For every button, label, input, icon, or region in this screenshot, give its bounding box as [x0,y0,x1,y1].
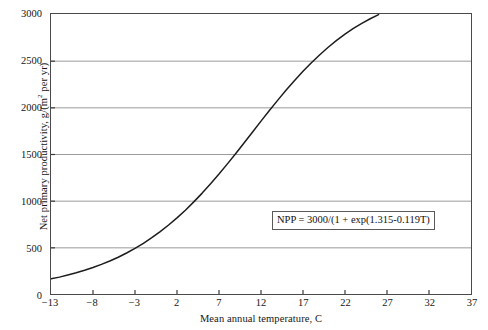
y-tick-label: 1000 [21,196,42,207]
y-tick-label: 2000 [21,102,42,113]
x-axis-tick-labels: −13−8−327121722273237 [50,297,472,313]
x-tick-label: 17 [298,297,309,308]
y-tick-label: 3000 [21,8,42,19]
plot-area [50,13,472,295]
y-axis-tick-labels: 050010001500200025003000 [0,0,46,330]
x-tick-label: 7 [216,297,221,308]
equation-annotation: NPP = 3000/(1 + exp(1.315-0.119T) [272,211,435,230]
x-tick-label: −8 [87,297,98,308]
y-tick-label: 500 [26,243,42,254]
series-line-npp [51,15,379,279]
x-tick-label: −3 [129,297,140,308]
y-tick-label: 1500 [21,149,42,160]
chart-page: Net primary productivity, g/(m2 per yr) … [0,0,488,330]
x-tick-label: 22 [340,297,351,308]
x-tick-label: 32 [425,297,436,308]
x-tick-label: 37 [467,297,478,308]
x-tick-label: 2 [174,297,179,308]
x-tick-label: 12 [256,297,267,308]
x-tick-label: 27 [382,297,393,308]
data-curve [51,14,471,294]
x-tick-label: −13 [42,297,58,308]
y-tick-label: 2500 [21,55,42,66]
x-axis-title: Mean annual temperature, C [50,313,472,324]
